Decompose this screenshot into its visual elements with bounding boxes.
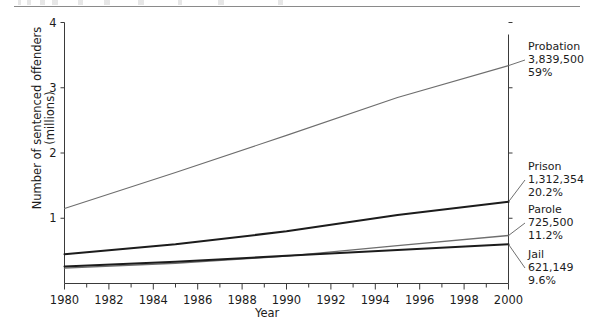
x-tick-label-1980: 1980	[40, 293, 90, 307]
annotation-count-probation: 3,839,500	[528, 53, 584, 66]
annotation-percent-jail: 9.6%	[528, 274, 574, 287]
annotation-percent-probation: 59%	[528, 66, 584, 79]
axis-frame-path	[65, 23, 509, 284]
x-tick-label-1990: 1990	[262, 293, 312, 307]
annotation-label-jail: Jail	[528, 248, 574, 261]
leader-line-parole	[509, 223, 526, 236]
x-tick-label-1996: 1996	[395, 293, 445, 307]
annotation-leader-lines	[509, 60, 526, 268]
figure-container: 1234 19801982198419861988199019921994199…	[0, 0, 591, 331]
annotation-percent-prison: 20.2%	[528, 186, 584, 199]
annotation-count-parole: 725,500	[528, 216, 574, 229]
series-line-prison	[65, 202, 509, 254]
x-tick-label-1988: 1988	[217, 293, 267, 307]
x-tick-label-1986: 1986	[173, 293, 223, 307]
line-chart-plot	[0, 0, 591, 331]
x-tick-label-1982: 1982	[84, 293, 134, 307]
annotation-probation: Probation3,839,50059%	[528, 40, 584, 80]
series-line-probation	[65, 66, 509, 209]
leader-line-prison	[509, 180, 526, 202]
leader-line-probation	[509, 60, 526, 66]
y-axis-title: Number of sentenced offenders (millions)	[31, 8, 57, 228]
y-axis-title-line2: (millions)	[43, 91, 57, 144]
leader-line-jail	[509, 244, 526, 268]
annotation-label-probation: Probation	[528, 40, 584, 53]
annotation-jail: Jail621,1499.6%	[528, 248, 574, 288]
x-axis-title: Year	[255, 306, 279, 320]
annotation-prison: Prison1,312,35420.2%	[528, 160, 584, 200]
x-tick-label-1998: 1998	[439, 293, 489, 307]
y-axis-title-line1: Number of sentenced offenders	[30, 27, 44, 210]
data-series-lines	[65, 66, 509, 269]
x-tick-label-1992: 1992	[306, 293, 356, 307]
annotation-count-jail: 621,149	[528, 261, 574, 274]
x-tick-label-1984: 1984	[128, 293, 178, 307]
plot-frame	[65, 23, 509, 284]
annotation-count-prison: 1,312,354	[528, 173, 584, 186]
annotation-percent-parole: 11.2%	[528, 229, 574, 242]
annotation-label-parole: Parole	[528, 203, 574, 216]
annotation-label-prison: Prison	[528, 160, 584, 173]
x-tick-label-1994: 1994	[350, 293, 400, 307]
x-tick-label-2000: 2000	[484, 293, 534, 307]
annotation-parole: Parole725,50011.2%	[528, 203, 574, 243]
